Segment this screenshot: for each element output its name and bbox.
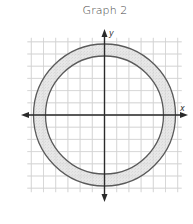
graph-canvas: x y xyxy=(0,0,193,224)
x-axis-label: x xyxy=(179,104,185,113)
y-axis-label: y xyxy=(108,29,114,38)
